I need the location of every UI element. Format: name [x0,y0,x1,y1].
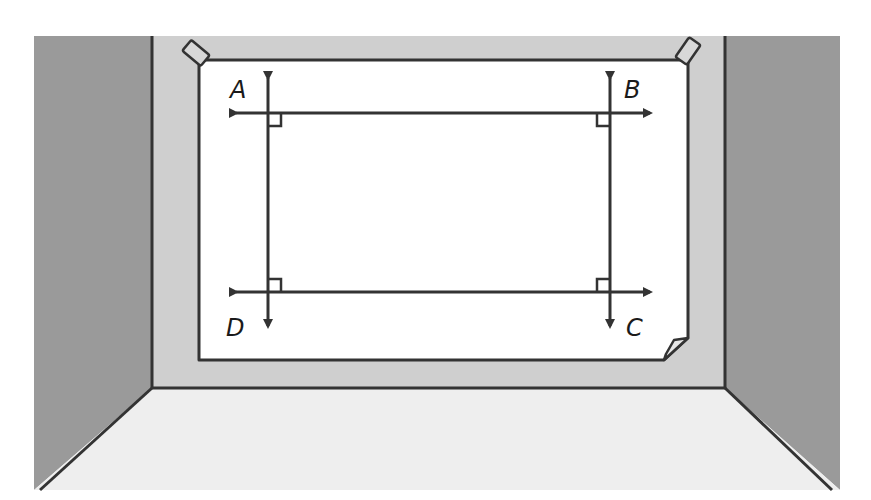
poster-scene: A B C D [0,0,871,500]
point-label-b: B [624,76,640,104]
point-label-d: D [226,314,244,342]
point-label-c: C [626,314,643,342]
floor [34,388,840,490]
poster [199,60,688,360]
point-label-a: A [228,76,246,104]
